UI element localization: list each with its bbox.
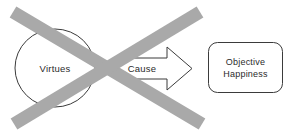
diagram-canvas: Virtues Cause Objective Happiness <box>0 0 291 139</box>
cause-label: Cause <box>128 63 156 74</box>
objective-happiness-box <box>209 43 283 93</box>
virtues-label: Virtues <box>40 63 71 74</box>
objective-happiness-label-line2: Happiness <box>223 69 268 79</box>
objective-happiness-label-line1: Objective <box>226 57 265 67</box>
diagram-svg: Virtues Cause Objective Happiness <box>0 0 291 139</box>
